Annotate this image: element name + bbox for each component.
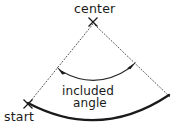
angle-arrowhead-left-icon bbox=[57, 67, 66, 75]
angle-label: angle bbox=[73, 97, 107, 109]
included-angle-diagram: center start included angle bbox=[0, 0, 176, 134]
center-label: center bbox=[74, 3, 115, 15]
center-cross-icon bbox=[89, 18, 98, 27]
angle-arc-path bbox=[62, 68, 131, 81]
start-label: start bbox=[4, 111, 34, 123]
angle-arrowhead-right-icon bbox=[127, 62, 137, 70]
